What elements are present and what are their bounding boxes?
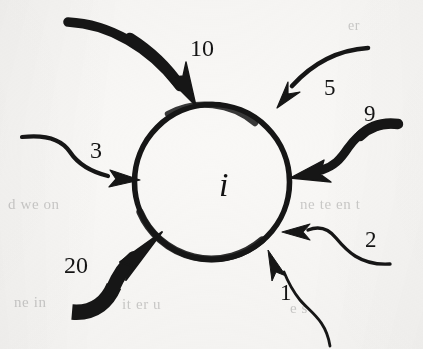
weight-label-10: 10: [190, 36, 214, 60]
arrow-5: [277, 48, 368, 108]
arrow-2-shaft: [308, 228, 390, 264]
arrow-1-head: [268, 250, 286, 281]
arrow-9: [290, 124, 398, 183]
weight-label-3: 3: [90, 138, 102, 162]
arrow-3: [22, 136, 140, 187]
arrow-10: [68, 22, 196, 106]
weight-label-9: 9: [364, 102, 376, 125]
node-label-i: i: [219, 168, 228, 202]
figure-root: d we on ne te en t ne in it er u e s er: [0, 0, 423, 349]
arrow-2-head: [282, 224, 310, 240]
arrow-1: [268, 250, 330, 346]
weight-label-1: 1: [280, 281, 292, 304]
arrow-10-shaft: [68, 22, 178, 84]
arrow-5-head: [277, 82, 300, 108]
weight-label-20: 20: [64, 253, 88, 277]
weight-label-5: 5: [324, 76, 336, 99]
weight-label-2: 2: [365, 228, 377, 251]
